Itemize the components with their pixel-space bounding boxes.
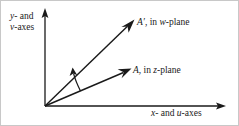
diagram-canvas bbox=[1, 1, 239, 126]
vector-a-prime-label: A′, in w-plane bbox=[137, 17, 190, 28]
vector-a-plane-italic: z bbox=[153, 65, 157, 75]
horizontal-axis-label-text2: -axes bbox=[182, 108, 202, 118]
vector-a-prime-symbol: A′ bbox=[137, 17, 145, 27]
vertical-axis-label: y- and v-axes bbox=[10, 11, 34, 33]
vector-a-line bbox=[45, 73, 124, 107]
vertical-axis-label-line2: v-axes bbox=[10, 22, 34, 33]
vector-a-label: A, in z-plane bbox=[133, 65, 181, 76]
vertical-axis-label-text2: -axes bbox=[14, 22, 34, 32]
rotation-angle-arc-path bbox=[74, 74, 81, 91]
vertical-axis-label-text1: - and bbox=[14, 11, 33, 21]
vector-a-prime-text: , in w-plane bbox=[145, 17, 190, 27]
complex-plane-vector-diagram: y- and v-axes x- and u-axes A′, in w-pla… bbox=[0, 0, 239, 126]
horizontal-axis-label-text1: - and bbox=[155, 108, 177, 118]
vertical-axis bbox=[42, 8, 49, 106]
vector-a-text: , in z-plane bbox=[139, 65, 181, 75]
horizontal-axis-label: x- and u-axes bbox=[151, 108, 202, 119]
vector-a-prime bbox=[45, 20, 135, 107]
vector-a-prime-plane-italic: w bbox=[159, 17, 165, 27]
rotation-angle-arc bbox=[70, 68, 81, 92]
vertical-axis-label-line1: y- and bbox=[10, 11, 34, 22]
vector-a bbox=[45, 69, 132, 107]
vector-a-prime-line bbox=[45, 26, 128, 106]
